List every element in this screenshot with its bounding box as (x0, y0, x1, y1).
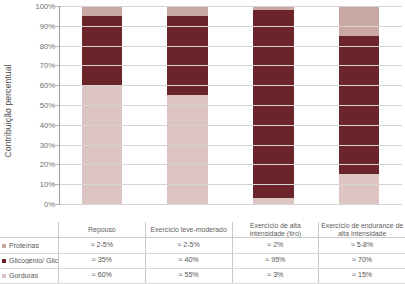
stacked-bar-chart: Contribuição percentual 100%90%80%70%60%… (0, 0, 405, 284)
table-cell: ≈ 70% (319, 254, 405, 268)
grid-line (59, 65, 402, 66)
table-cell: ≈ 35% (59, 254, 146, 268)
grid-line (59, 26, 402, 27)
y-axis-tick-label: 70% (40, 61, 55, 70)
bar-segment-prote-nas (167, 6, 207, 16)
y-axis-tick-label: 40% (40, 120, 55, 129)
y-axis-tick-label: 20% (40, 160, 55, 169)
y-axis-tick-label: 100% (36, 2, 55, 11)
y-axis-tick-label: 50% (40, 101, 55, 110)
bar-segment-glicog-nio-glicose (167, 16, 207, 95)
y-axis-tick-label: 80% (40, 41, 55, 50)
bar-segment-gorduras (339, 174, 379, 204)
legend-swatch-icon (2, 274, 6, 278)
bar-segment-gorduras (167, 95, 207, 204)
data-table: Repouso Exercício leve-moderado Exercíci… (0, 222, 405, 284)
table-cell: ≈ 2-5% (146, 238, 233, 252)
legend-item-gorduras: Gorduras (0, 269, 59, 283)
legend-swatch-icon (2, 259, 6, 263)
table-cell: ≈ 3% (233, 269, 320, 283)
column-header: Exercício de alta intensidade (tiro) (233, 222, 320, 237)
grid-line (59, 164, 402, 165)
y-axis-tick-label: 30% (40, 140, 55, 149)
y-axis-tick-label: 0% (44, 200, 55, 209)
grid-line (59, 184, 402, 185)
grid-line (59, 125, 402, 126)
bar-segment-prote-nas (82, 6, 122, 16)
table-cell: ≈ 95% (233, 254, 320, 268)
legend-label: Glicogénio/ Glicose (9, 257, 58, 264)
table-row: Gorduras ≈ 60% ≈ 55% ≈ 3% ≈ 15% (0, 269, 405, 284)
table-cell: ≈ 5-8% (319, 238, 405, 252)
table-corner-cell (0, 222, 59, 237)
legend-label: Proteínas (9, 242, 39, 249)
y-axis-tick-labels: 100%90%80%70%60%50%40%30%20%10%0% (15, 0, 59, 222)
bar-segment-prote-nas (339, 6, 379, 36)
legend-item-glicogenio: Glicogénio/ Glicose (0, 254, 59, 268)
table-cell: ≈ 2% (233, 238, 320, 252)
plot-canvas (59, 0, 402, 222)
plot-area: Contribuição percentual 100%90%80%70%60%… (0, 0, 405, 222)
table-row: Proteínas ≈ 2-5% ≈ 2-5% ≈ 2% ≈ 5-8% (0, 238, 405, 253)
grid-line (59, 145, 402, 146)
y-axis-title: Contribuição percentual (0, 0, 15, 222)
y-axis-tick-label: 10% (40, 180, 55, 189)
y-axis-tick-label: 90% (40, 21, 55, 30)
legend-swatch-icon (2, 244, 6, 248)
legend-label: Gorduras (9, 272, 38, 279)
column-header: Repouso (59, 222, 146, 237)
column-header: Exercício leve-moderado (146, 222, 233, 237)
grid-line (59, 46, 402, 47)
table-header-row: Repouso Exercício leve-moderado Exercíci… (0, 222, 405, 238)
grid-line (59, 6, 402, 7)
column-header: Exercício de endurance de alta intensida… (319, 222, 405, 237)
grid-line (59, 204, 402, 205)
y-axis-title-label: Contribuição percentual (3, 64, 13, 157)
table-cell: ≈ 55% (146, 269, 233, 283)
legend-item-proteinas: Proteínas (0, 238, 59, 252)
grid-line (59, 85, 402, 86)
table-cell: ≈ 40% (146, 254, 233, 268)
table-cell: ≈ 15% (319, 269, 405, 283)
table-row: Glicogénio/ Glicose ≈ 35% ≈ 40% ≈ 95% ≈ … (0, 254, 405, 269)
y-axis-tick-label: 60% (40, 81, 55, 90)
grid-line (59, 105, 402, 106)
table-cell: ≈ 2-5% (59, 238, 146, 252)
table-cell: ≈ 60% (59, 269, 146, 283)
y-axis-line (59, 6, 60, 205)
